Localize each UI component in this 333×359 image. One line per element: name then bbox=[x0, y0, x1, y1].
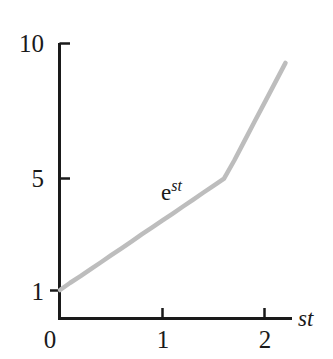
y-tick-label-10: 10 bbox=[8, 31, 44, 56]
x-tick-label-1: 1 bbox=[157, 327, 170, 352]
y-tick-label-1: 1 bbox=[8, 279, 44, 304]
x-tick-label-2: 2 bbox=[259, 327, 272, 352]
exponential-curve-figure: 10 5 1 0 1 2 st est bbox=[0, 0, 333, 359]
x-axis-label: st bbox=[298, 307, 313, 330]
y-tick-label-5: 5 bbox=[8, 166, 44, 191]
curve-annotation-exponent: st bbox=[171, 177, 182, 194]
curve-annotation-base: e bbox=[161, 180, 171, 205]
x-tick-label-0: 0 bbox=[44, 327, 57, 352]
curve-annotation: est bbox=[161, 181, 182, 204]
